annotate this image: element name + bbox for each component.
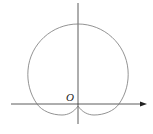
- x-axis-arrow-icon: [140, 102, 147, 107]
- origin-label: O: [66, 91, 74, 103]
- diagram-canvas: [0, 0, 153, 134]
